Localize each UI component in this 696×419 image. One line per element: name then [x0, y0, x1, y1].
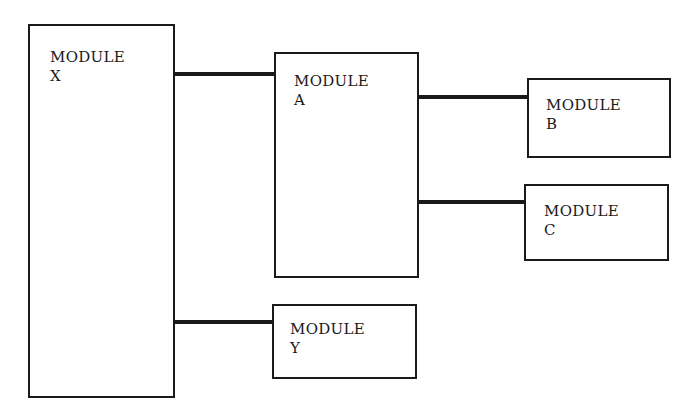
module-y-label-line2: Y — [290, 339, 300, 358]
module-b-box: MODULE B — [527, 78, 671, 158]
connector-a-to-b — [418, 95, 528, 99]
module-diagram: MODULE X MODULE A MODULE B MODULE C MODU… — [0, 0, 696, 419]
connector-x-to-a — [173, 72, 275, 76]
connector-a-to-c — [417, 200, 525, 204]
connector-x-to-y — [171, 320, 273, 324]
module-x-label-line2: X — [50, 67, 61, 86]
module-a-label-line2: A — [294, 91, 305, 110]
module-a-box: MODULE A — [274, 52, 419, 278]
module-x-label-line1: MODULE — [50, 48, 125, 67]
module-a-label-line1: MODULE — [294, 72, 369, 91]
module-c-label-line1: MODULE — [544, 202, 619, 221]
module-b-label-line2: B — [546, 115, 557, 134]
module-c-label-line2: C — [544, 221, 556, 240]
module-y-label-line1: MODULE — [290, 320, 365, 339]
module-c-box: MODULE C — [524, 184, 669, 261]
module-x-box: MODULE X — [28, 24, 175, 398]
module-b-label-line1: MODULE — [546, 96, 621, 115]
module-y-box: MODULE Y — [272, 304, 417, 379]
